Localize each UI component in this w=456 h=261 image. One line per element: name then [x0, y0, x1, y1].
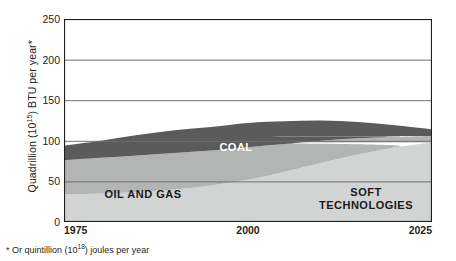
x-axis-ticks: 1975 2000 2025 [64, 224, 432, 240]
y-tick-150: 150 [34, 95, 60, 105]
plot-area: COAL OIL AND GAS SOFT TECHNOLOGIES [64, 19, 432, 222]
y-axis-ticks: 0 50 100 150 200 250 [32, 19, 60, 222]
y-tick-200: 200 [34, 55, 60, 65]
footnote-exponent: 18 [78, 243, 85, 250]
energy-transition-area-chart: Quadrillion (1015) BTU per year* 0 50 10… [0, 0, 456, 261]
x-tick-2000: 2000 [236, 224, 259, 236]
y-tick-50: 50 [34, 176, 60, 186]
y-tick-250: 250 [34, 14, 60, 24]
stacked-area-svg [64, 19, 432, 222]
footnote-suffix: ) joules per year [85, 245, 150, 255]
footnote-prefix: * Or quintillion (10 [6, 245, 78, 255]
y-tick-100: 100 [34, 136, 60, 146]
x-tick-1975: 1975 [64, 224, 87, 236]
x-tick-2025: 2025 [409, 224, 432, 236]
y-tick-0: 0 [34, 217, 60, 227]
footnote: * Or quintillion (1018) joules per year [6, 241, 149, 256]
